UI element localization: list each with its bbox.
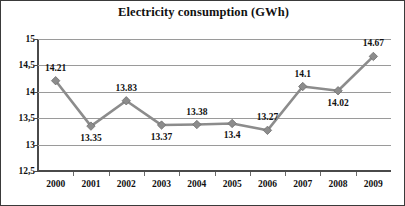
data-label: 13.83 (116, 83, 137, 93)
data-label: 13.37 (151, 132, 172, 142)
data-label: 14.1 (294, 69, 311, 79)
data-label: 14.02 (327, 98, 348, 108)
data-label: 14.67 (363, 38, 384, 48)
data-label: 14.21 (45, 63, 66, 73)
data-label: 13.38 (186, 107, 207, 117)
data-label: 13.4 (224, 130, 241, 140)
data-label: 13.35 (80, 133, 101, 143)
series-line (56, 56, 374, 130)
data-label: 13.27 (257, 112, 278, 122)
data-point-marker (228, 119, 236, 127)
data-point-marker (193, 120, 201, 128)
chart-container: Electricity consumption (GWh) 1514,51413… (0, 0, 405, 206)
